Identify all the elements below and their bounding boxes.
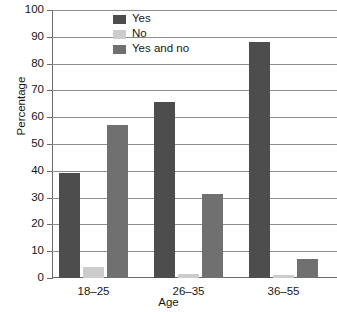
bar [83,267,104,278]
y-tick-label: 30 [4,192,44,204]
plot-area [52,10,337,278]
bar [107,125,128,278]
bar [178,274,199,278]
legend-label: Yes [132,13,151,25]
y-tick-label: 100 [4,4,44,16]
legend-item-yes-and-no: Yes and no [113,42,189,56]
y-tick-label: 0 [4,272,44,284]
bar [297,259,318,278]
y-tick-label: 90 [4,31,44,43]
y-axis-title: Percentage [15,51,27,161]
legend-item-yes: Yes [113,12,189,26]
y-tick-label: 40 [4,165,44,177]
bar [154,102,175,278]
legend-swatch-icon [113,15,126,24]
bar [273,275,294,278]
legend-label: Yes and no [132,43,189,55]
y-tick-label: 20 [4,218,44,230]
x-axis-title: Age [0,296,337,308]
bars [52,10,337,278]
bar [59,173,80,278]
legend-swatch-icon [113,45,126,54]
legend-item-no: No [113,27,189,41]
y-tick-mark [47,278,52,279]
legend-swatch-icon [113,30,126,39]
bar [249,42,270,278]
legend: Yes No Yes and no [113,12,189,57]
bar-chart: 0102030405060708090100 18–2526–3536–55 A… [0,0,337,312]
legend-label: No [132,28,147,40]
bar [202,194,223,278]
y-tick-label: 10 [4,245,44,257]
